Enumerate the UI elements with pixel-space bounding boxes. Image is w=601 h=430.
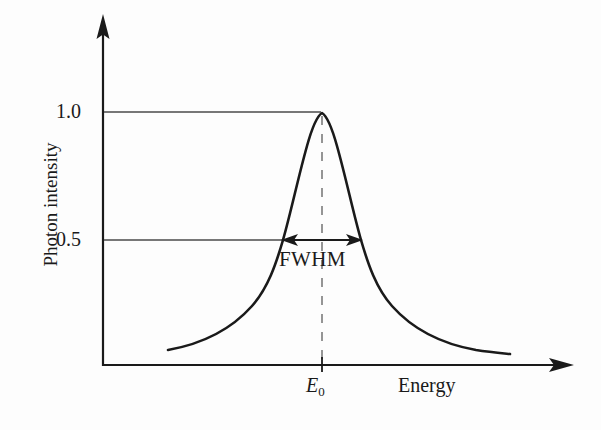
x-tick-label-e0: E0 <box>306 375 325 395</box>
x-axis-label: Energy <box>398 375 455 395</box>
y-axis <box>97 14 110 366</box>
e0-symbol: E <box>306 374 318 396</box>
e0-subscript: 0 <box>318 384 325 399</box>
fwhm-spectral-peak-figure: Photon intensity 1.0 0.5 FWHM E0 Energy <box>0 0 601 430</box>
y-axis-label: Photon intensity <box>41 115 60 295</box>
photon-intensity-curve <box>168 113 510 354</box>
plot-canvas <box>0 0 601 430</box>
y-tick-label-0.5: 0.5 <box>56 229 81 249</box>
y-tick-label-1.0: 1.0 <box>56 101 81 121</box>
x-axis <box>103 358 574 372</box>
fwhm-label: FWHM <box>279 249 346 270</box>
